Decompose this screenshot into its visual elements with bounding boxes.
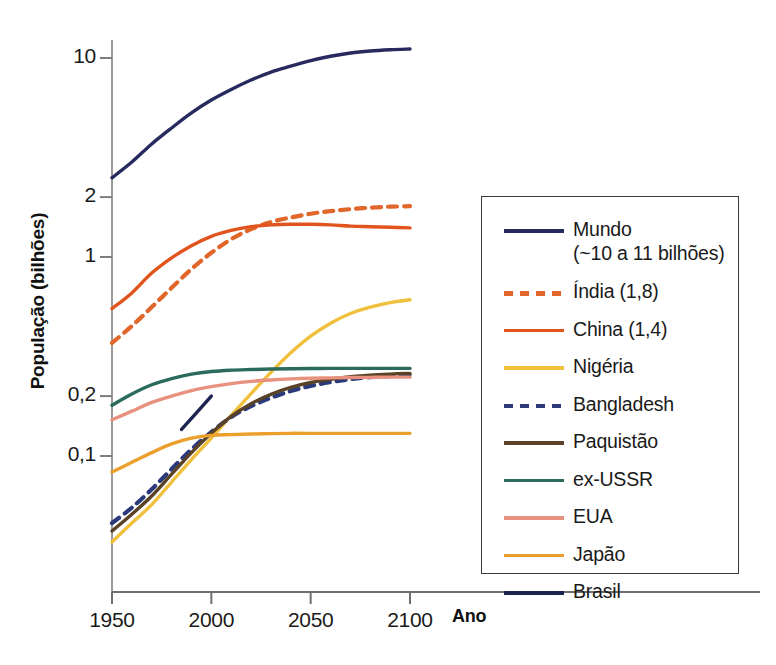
legend-item-label: Paquistão: [564, 429, 658, 453]
legend-line-swatch: [504, 224, 564, 238]
series-line-paquist-o: [112, 373, 410, 531]
y-tick-label: 0,1: [12, 442, 96, 466]
x-axis-title: Ano: [452, 606, 486, 627]
y-tick-label: 10: [12, 44, 96, 68]
legend-line-swatch: [504, 586, 564, 600]
legend-item-bangladesh[interactable]: Bangladesh: [504, 392, 734, 416]
legend-item-china[interactable]: China (1,4): [504, 317, 734, 341]
legend-items: Mundo (~10 a 11 bilhões)Índia (1,8)China…: [482, 197, 738, 573]
x-tick-label: 2050: [271, 608, 351, 632]
legend-line-swatch: [504, 324, 564, 338]
legend-item-label: China (1,4): [564, 317, 667, 341]
data-series-group: [112, 49, 410, 542]
legend-line-swatch: [504, 549, 564, 563]
x-tick-label: 2100: [370, 608, 450, 632]
legend-item-label: Brasil: [564, 579, 621, 603]
legend-line-swatch: [504, 511, 564, 525]
legend-item-ex-ussr[interactable]: ex-USSR: [504, 467, 734, 491]
y-tick-label: 0,2: [12, 382, 96, 406]
legend-item-brasil[interactable]: Brasil: [504, 579, 734, 603]
population-projection-chart: População (bilhões) Ano 0,10,21210195020…: [0, 0, 776, 665]
legend-item-label: Nigéria: [564, 354, 633, 378]
legend-item-mundo[interactable]: Mundo (~10 a 11 bilhões): [504, 217, 734, 265]
legend-line-swatch: [504, 361, 564, 375]
legend-item-label: EUA: [564, 504, 613, 528]
x-axis-ticks: [112, 592, 410, 604]
legend-item-label: Japão: [564, 542, 625, 566]
y-axis-ticks: [100, 58, 112, 456]
legend-line-swatch: [504, 474, 564, 488]
legend-item--ndia[interactable]: Índia (1,8): [504, 279, 734, 303]
series-line-mundo: [112, 49, 410, 178]
legend-item-label: Índia (1,8): [564, 279, 659, 303]
legend-line-swatch: [504, 286, 564, 300]
legend-item-jap-o[interactable]: Japão: [504, 542, 734, 566]
x-tick-label: 2000: [171, 608, 251, 632]
y-tick-label: 1: [12, 243, 96, 267]
legend-item-paquist-o[interactable]: Paquistão: [504, 429, 734, 453]
series-line-jap-o: [112, 433, 410, 472]
x-tick-label: 1950: [72, 608, 152, 632]
legend-item-label: ex-USSR: [564, 467, 653, 491]
legend: Mundo (~10 a 11 bilhões)Índia (1,8)China…: [481, 196, 739, 574]
series-line-china: [112, 224, 410, 308]
legend-line-swatch: [504, 436, 564, 450]
legend-item-nig-ria[interactable]: Nigéria: [504, 354, 734, 378]
legend-item-eua[interactable]: EUA: [504, 504, 734, 528]
legend-item-label: Bangladesh: [564, 392, 674, 416]
series-line-nig-ria: [112, 300, 410, 542]
legend-item-label: Mundo (~10 a 11 bilhões): [564, 217, 725, 265]
legend-line-swatch: [504, 399, 564, 413]
series-line-brasil: [182, 396, 212, 429]
y-tick-label: 2: [12, 183, 96, 207]
